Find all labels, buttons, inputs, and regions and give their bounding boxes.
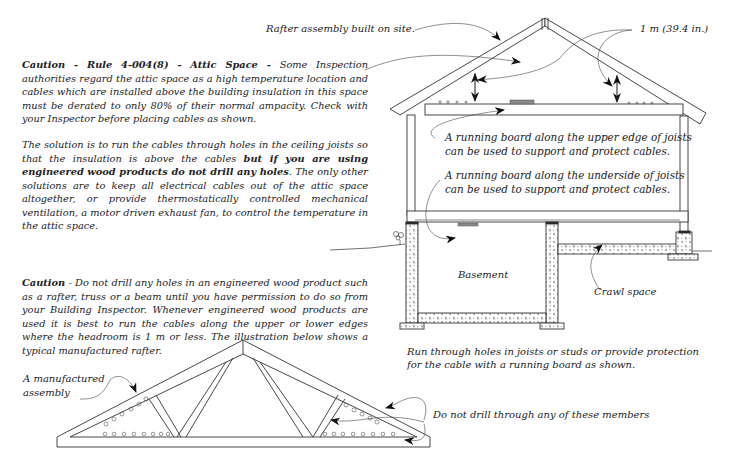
label-manufactured-assembly-2: assembly xyxy=(23,387,70,398)
footing-right xyxy=(540,323,564,329)
caption-line-2: for the cable with a running board as sh… xyxy=(407,359,635,370)
basement-wall-right xyxy=(546,223,558,323)
left-wall xyxy=(407,115,415,215)
floor-joist xyxy=(407,211,688,222)
label-under-board-1: A running board along the underside of j… xyxy=(445,169,685,181)
basement-floor xyxy=(418,313,546,323)
ceiling-joist xyxy=(425,104,683,115)
label-crawl-space: Crawl space xyxy=(594,286,656,297)
leader-rafter-site xyxy=(415,23,500,40)
grade-line-left xyxy=(330,244,405,250)
under-running-board xyxy=(458,223,478,226)
crawl-wall xyxy=(676,232,692,254)
upper-running-board xyxy=(510,100,534,104)
caution-attic-paragraph: Caution - Rule 4-004(8) - Attic Space - … xyxy=(22,58,368,126)
label-rafter-assembly: Rafter assembly built on site. xyxy=(266,23,415,34)
caution-engineered-body: - Do not drill any holes in an engineere… xyxy=(22,277,368,356)
shrub-icon xyxy=(394,232,404,246)
leader-caution-attic xyxy=(365,55,520,70)
label-manufactured-assembly-1: A manufactured xyxy=(23,373,105,384)
label-basement: Basement xyxy=(458,269,508,280)
crawl-footing xyxy=(668,254,698,260)
solution-paragraph: The solution is to run the cables throug… xyxy=(22,138,368,233)
caption-line-1: Run through holes in joists or studs or … xyxy=(407,346,699,357)
label-headroom: 1 m (39.4 in.) xyxy=(640,23,708,34)
label-do-not-drill: Do not drill through any of these member… xyxy=(433,409,649,420)
caution-engineered-heading: Caution xyxy=(22,277,65,288)
label-upper-board-1: A running board along the upper edge of … xyxy=(445,131,692,143)
basement-wall-left xyxy=(406,223,418,323)
caution-engineered-paragraph: Caution - Do not drill any holes in an e… xyxy=(22,276,368,357)
footing-left xyxy=(400,323,424,329)
label-upper-board-2: can be used to support and protect cable… xyxy=(445,145,670,157)
crawl-slab xyxy=(558,244,680,254)
caution-attic-heading: Caution - Rule 4-004(8) - Attic Space - xyxy=(22,59,280,70)
leader-members-top xyxy=(386,398,426,420)
label-under-board-2: can be used to support and protect cable… xyxy=(445,183,670,195)
